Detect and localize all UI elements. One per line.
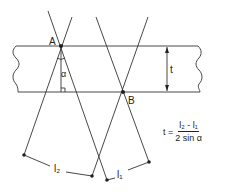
formula-lhs: t = (163, 127, 173, 137)
beam-a-ascending (24, 17, 72, 155)
label-thickness: t (170, 65, 173, 75)
beam-a-descending (48, 11, 107, 180)
l2-segment-left (24, 155, 50, 166)
formula-fraction: l₂ - l₁ 2 sin α (175, 120, 202, 143)
l2-segment-right (66, 172, 92, 176)
formula-numerator: l₂ - l₁ (178, 120, 199, 132)
endpoint-dot-l2-start (22, 153, 26, 157)
endpoint-dot-l1-end (147, 160, 151, 164)
endpoint-dot-l1-start (105, 178, 109, 182)
beam-b-ascending (92, 17, 148, 176)
right-angle-mark (61, 88, 65, 92)
thickness-arrow-bottom (165, 85, 169, 91)
label-angle: α (61, 70, 66, 79)
label-l2: l₂ (54, 164, 60, 174)
thickness-arrow-top (165, 47, 169, 53)
label-l1: l₁ (117, 170, 123, 180)
label-point-b: B (128, 96, 135, 106)
plate-left-break (13, 46, 19, 92)
plate-right-break (196, 46, 202, 92)
endpoint-dot-l2-end (90, 174, 94, 178)
label-point-a: A (49, 37, 56, 47)
diagram-canvas (0, 0, 225, 192)
point-b-dot (121, 90, 125, 94)
point-a-dot (59, 44, 63, 48)
formula-denominator: 2 sin α (175, 132, 202, 143)
thickness-formula: t = l₂ - l₁ 2 sin α (163, 120, 202, 143)
l1-segment-right (128, 162, 149, 170)
